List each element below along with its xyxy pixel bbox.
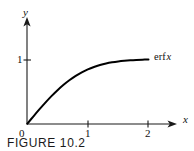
- y-axis-label: y: [23, 7, 28, 18]
- curve-annotation-variable: x: [167, 51, 172, 62]
- plot-area: [0, 0, 194, 151]
- curve-annotation: erf x: [154, 52, 171, 63]
- figure-container: y x 1 0 1 2 erf x FIGURE 10.2: [0, 0, 194, 151]
- y-tick-label-1: 1: [17, 54, 23, 65]
- curve-annotation-function: erf: [154, 51, 166, 62]
- x-tick-label-1: 1: [85, 128, 91, 139]
- figure-caption: FIGURE 10.2: [7, 136, 86, 150]
- erf-curve: [27, 60, 148, 124]
- x-axis-label: x: [183, 114, 188, 125]
- x-tick-label-2: 2: [145, 128, 151, 139]
